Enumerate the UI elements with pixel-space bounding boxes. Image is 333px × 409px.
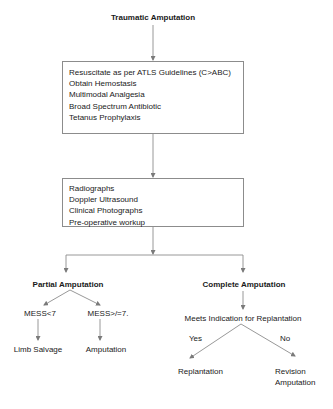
replantation-node: Replantation [178,366,223,377]
workup-box: Radiographs Doppler Ultrasound Clinical … [62,178,244,227]
flowchart: Traumatic Amputation Resuscitate as per … [0,0,333,409]
step-tetanus: Tetanus Prophylaxis [69,112,243,123]
no-label: No [280,333,290,344]
workup-radiographs: Radiographs [69,183,243,194]
mess-less-than-7-node: MESS<7 [24,308,56,319]
step-resuscitate: Resuscitate as per ATLS Guidelines (C>AB… [69,67,243,78]
workup-doppler: Doppler Ultrasound [69,194,243,205]
complete-amputation-node: Complete Amputation [203,279,286,290]
yes-label: Yes [189,333,202,344]
partial-amputation-node: Partial Amputation [33,279,104,290]
amputation-node: Amputation [86,344,126,355]
step-analgesia: Multimodal Analgesia [69,89,243,100]
step-antibiotic: Broad Spectrum Antibiotic [69,101,243,112]
step-hemostasis: Obtain Hemostasis [69,78,243,89]
replantation-decision-node: Meets Indication for Replantation [185,313,302,324]
workup-photographs: Clinical Photographs [69,205,243,216]
initial-management-box: Resuscitate as per ATLS Guidelines (C>AB… [62,61,244,134]
mess-gte-7-node: MESS>/=7. [88,308,129,319]
limb-salvage-node: Limb Salvage [14,344,62,355]
title-node: Traumatic Amputation [111,12,195,23]
revision-amputation-node-line2: Amputation [275,377,315,388]
revision-amputation-node-line1: Revision [275,366,306,377]
workup-preop: Pre-operative workup [69,217,243,228]
